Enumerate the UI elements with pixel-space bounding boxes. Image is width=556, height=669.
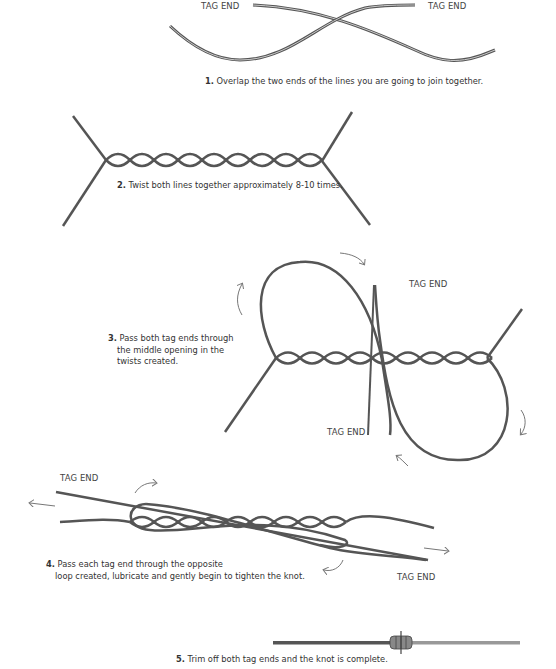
step3-tag-end-top: TAG END (409, 279, 447, 289)
step1-caption: 1. Overlap the two ends of the lines you… (205, 76, 483, 88)
step5-caption: 5. Trim off both tag ends and the knot i… (176, 654, 388, 666)
step3-caption: 3. Pass both tag ends through the middle… (108, 333, 234, 368)
step1-lines (170, 5, 495, 60)
step1-tag-end-left: TAG END (201, 1, 239, 11)
step4-caption: 4. Pass each tag end through the opposit… (46, 559, 305, 582)
step2-caption: 2. Twist both lines together approximate… (117, 180, 343, 192)
step2-twist (63, 112, 370, 226)
step5-finished-knot (273, 631, 520, 654)
step4-tag-end-bottom: TAG END (397, 572, 435, 582)
step3-tag-end-bottom: TAG END (327, 427, 365, 437)
step4-tag-end-top: TAG END (60, 473, 98, 483)
step4-knot (56, 492, 434, 560)
step1-tag-end-right: TAG END (428, 1, 466, 11)
step3-loops (225, 262, 522, 460)
